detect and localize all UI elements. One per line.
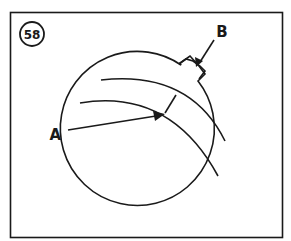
pointer-arrow-b (195, 40, 214, 67)
band-lower-edge (80, 101, 218, 176)
band-upper-edge (101, 79, 225, 141)
figure-number-badge: 58 (20, 22, 44, 46)
diagram-figure: 58 A B (0, 0, 291, 241)
label-b: B (216, 23, 227, 41)
figure-number: 58 (24, 28, 41, 42)
pointer-arrow-a (68, 111, 165, 130)
sphere-outline (60, 51, 214, 205)
label-a: A (49, 126, 61, 144)
band-cross-line (165, 95, 176, 113)
figure-frame (11, 13, 283, 238)
